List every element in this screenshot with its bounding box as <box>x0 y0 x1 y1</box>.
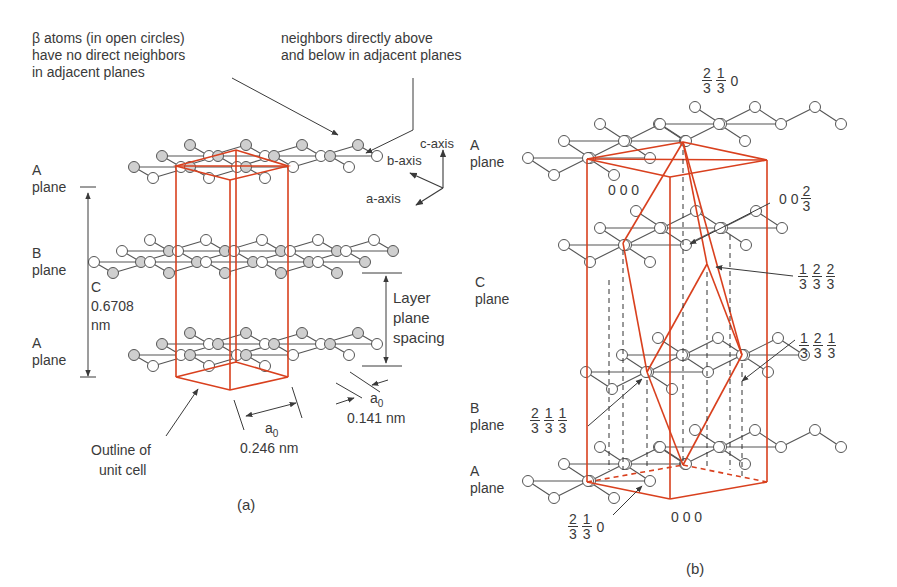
alpha-atom <box>332 268 343 279</box>
beta-atom <box>372 339 383 350</box>
fraction: 13 <box>798 262 808 291</box>
panel-b-lattice <box>523 102 847 504</box>
beta-atoms-note: β atoms (in open circles) have no direct… <box>32 30 185 81</box>
a0-bond-symbol: a0 <box>370 390 383 412</box>
alpha-atom <box>185 328 196 339</box>
beta-note-line-2: have no direct neighbors <box>32 47 185 64</box>
beta-atom <box>117 246 128 257</box>
beta-atom <box>313 235 324 246</box>
coord-label-origin_top: 0 0 0 <box>606 182 639 198</box>
fraction: 23 <box>812 262 822 291</box>
alpha-atom <box>185 350 196 361</box>
alpha-atom <box>297 328 308 339</box>
numerator: 2 <box>801 184 811 199</box>
beta-note-line-1: β atoms (in open circles) <box>32 30 185 47</box>
alpha-atoms-note: neighbors directly above and below in ad… <box>281 30 462 64</box>
beta-atom <box>667 384 678 395</box>
beta-atom <box>653 333 664 344</box>
denominator: 3 <box>798 277 808 291</box>
beta-atom <box>645 153 656 164</box>
a0-letter: a <box>370 390 378 406</box>
panel-a-caption: (a) <box>237 496 255 513</box>
unit-cell-line-1: Outline of <box>91 440 151 460</box>
unit-cell-top-edge <box>670 160 767 177</box>
a0-letter: a <box>265 420 273 436</box>
fraction: 23 <box>530 406 540 435</box>
a-axis-label: a-axis <box>366 190 401 207</box>
fraction: 23 <box>826 262 836 291</box>
beta-atom <box>763 367 774 378</box>
beta-atom <box>607 384 618 395</box>
alpha-atom <box>241 328 252 339</box>
numerator: 2 <box>568 512 578 527</box>
fraction: 23 <box>568 512 578 541</box>
beta-atom <box>148 361 159 372</box>
beta-atom <box>285 246 296 257</box>
beta-atom <box>344 162 355 173</box>
beta-atom <box>619 459 630 470</box>
beta-atom <box>645 257 656 268</box>
beta-atom <box>681 240 692 251</box>
c-unit: nm <box>91 316 134 335</box>
coord-pointer-c-plane <box>716 267 793 276</box>
beta-atom <box>549 493 560 504</box>
alpha-atom <box>129 162 140 173</box>
denominator: 3 <box>812 277 822 291</box>
beta-atom <box>372 151 383 162</box>
alpha-atom <box>276 268 287 279</box>
beta-atom <box>617 350 628 361</box>
a0-lattice-symbol: a0 <box>265 420 278 442</box>
alpha-atom <box>353 328 364 339</box>
denominator: 3 <box>582 527 592 541</box>
beta-atom <box>145 257 156 268</box>
unit-cell-bottom-edge <box>670 482 767 499</box>
beta-atom-pointer <box>232 78 338 135</box>
alpha-note-line-2: and below in adjacent planes <box>281 47 462 64</box>
beta-atom <box>260 173 271 184</box>
numerator: 1 <box>544 406 554 421</box>
a0-subscript: 0 <box>273 428 279 439</box>
coord-value: 0 0 0 <box>608 182 639 198</box>
beta-atom <box>677 350 688 361</box>
unit-cell-top-edge <box>587 142 683 159</box>
alpha-atom <box>325 339 336 350</box>
coord-label-b_plane_l: 231313 <box>529 406 568 435</box>
alpha-atom <box>213 339 224 350</box>
beta-atom <box>619 136 630 147</box>
panel-a-plane-label-a-top: A plane <box>32 162 66 196</box>
beta-atom <box>777 223 788 234</box>
coord-value: 0 0 <box>779 191 798 207</box>
beta-atom <box>750 102 761 113</box>
a0-lattice-arrow <box>246 403 296 416</box>
numerator: 2 <box>812 262 822 277</box>
bond-path <box>683 142 742 355</box>
beta-atom <box>609 493 620 504</box>
numerator: 2 <box>826 262 836 277</box>
denominator: 3 <box>568 527 578 541</box>
c-value: 0.6708 <box>91 297 134 316</box>
denominator: 3 <box>826 277 836 291</box>
fraction: 23 <box>702 66 712 95</box>
beta-atom <box>173 246 184 257</box>
unit-cell-pointer <box>166 389 198 436</box>
denominator: 3 <box>530 421 540 435</box>
beta-atom <box>655 442 666 453</box>
panel-b-plane-label-b: B plane <box>470 400 504 434</box>
beta-atom <box>836 442 847 453</box>
denominator: 3 <box>558 421 568 435</box>
tick <box>234 400 244 430</box>
beta-atom <box>713 333 724 344</box>
beta-atom <box>776 119 787 130</box>
plane-letter: A <box>470 463 504 480</box>
beta-atom <box>810 425 821 436</box>
c-axis-label: c-axis <box>420 135 454 152</box>
coord-value: 0 <box>731 73 739 89</box>
plane-word: plane <box>470 417 504 434</box>
coord-value: 0 0 0 <box>671 509 702 525</box>
alpha-atom <box>129 350 140 361</box>
coord-label-bottom_l: 23130 <box>567 512 604 541</box>
unit-cell-top-edge <box>587 159 670 177</box>
alpha-atom <box>360 257 371 268</box>
beta-atom <box>655 223 666 234</box>
denominator: 3 <box>716 81 726 95</box>
